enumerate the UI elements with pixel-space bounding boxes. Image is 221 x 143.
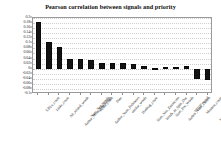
chart-figure: Pearson correlation between signals and … (0, 0, 221, 143)
y-axis-tick-label: -0.08 (22, 86, 30, 90)
y-axis-tick-label: 0.04 (24, 56, 30, 60)
x-axis-tick-mark (207, 93, 208, 95)
bar (152, 68, 158, 70)
x-axis-tick-mark (48, 93, 49, 95)
x-axis-tick-mark (101, 93, 102, 95)
chart-title: Pearson correlation between signals and … (0, 3, 221, 11)
bar (46, 42, 52, 69)
y-axis-tick-label: 0.08 (24, 45, 30, 49)
y-axis-tick-label: 0.12 (24, 35, 30, 39)
bar (78, 59, 84, 68)
y-axis-tick-label: -0.04 (22, 76, 30, 80)
x-axis-tick-mark (186, 93, 187, 95)
x-axis: URLs_countLinks_countAlt_related_wordsAu… (32, 93, 212, 143)
x-axis-tick-mark (80, 93, 81, 95)
x-axis-tick-mark (196, 93, 197, 95)
y-axis-tick-label: 0.14 (24, 30, 30, 34)
bar (205, 69, 211, 80)
x-axis-tick-mark (133, 93, 134, 95)
y-axis-tick-label: 0.2 (25, 15, 30, 19)
bar (99, 63, 105, 69)
x-axis-tick-mark (37, 93, 38, 95)
y-axis-tick-label: 0.06 (24, 50, 30, 54)
y-axis-tick-label: 0.18 (24, 20, 30, 24)
bar (173, 67, 179, 69)
plot-area (32, 17, 212, 93)
y-axis-tick-label: -0.02 (22, 71, 30, 75)
y-axis-tick-label: 0.1 (25, 40, 30, 44)
bar (67, 59, 73, 69)
y-axis-tick-label: 0.16 (24, 25, 30, 29)
bar (120, 63, 126, 68)
x-axis-tick-label: Date (115, 96, 123, 104)
bar (57, 47, 63, 69)
bar (88, 60, 94, 68)
y-axis: 0.20.180.160.140.120.10.080.060.040.020-… (0, 17, 32, 93)
bar (110, 63, 116, 69)
x-axis-tick-mark (164, 93, 165, 95)
x-axis-tick-mark (58, 93, 59, 95)
x-axis-tick-label: Alt_related_words (69, 96, 90, 119)
x-axis-tick-mark (90, 93, 91, 95)
y-axis-tick-label: -0.06 (22, 81, 30, 85)
bar-series (33, 18, 211, 92)
bar (36, 22, 42, 69)
y-axis-tick-label: -0.1 (24, 91, 30, 95)
x-axis-tick-mark (154, 93, 155, 95)
bar (184, 66, 190, 68)
x-axis-tick-mark (69, 93, 70, 95)
bar (131, 64, 137, 69)
x-axis-tick-mark (175, 93, 176, 95)
bar (194, 69, 200, 80)
x-axis-tick-mark (143, 93, 144, 95)
bar (163, 67, 169, 69)
y-axis-tick-label: 0.02 (24, 61, 30, 65)
bar (141, 66, 147, 69)
x-axis-tick-mark (111, 93, 112, 95)
x-axis-tick-mark (122, 93, 123, 95)
